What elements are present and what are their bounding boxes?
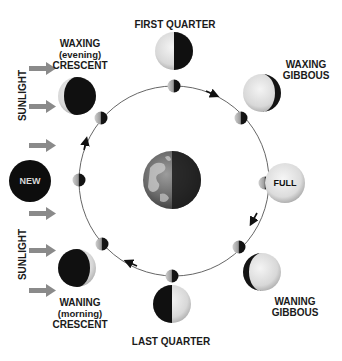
label-line: WAXING: [50, 38, 110, 49]
orbit-moon-left: [73, 174, 86, 187]
orbit-arrow-icon: [252, 213, 257, 222]
label-line: GIBBOUS: [270, 307, 320, 318]
label-line: (morning): [50, 308, 110, 319]
earth: [143, 151, 201, 209]
orbit-moon-bottom: [166, 270, 179, 283]
waxing-crescent-label: WAXING (evening) CRESCENT: [50, 38, 110, 71]
orbit-arrow-icon: [128, 262, 137, 266]
waning-gibbous-label: WANING GIBBOUS: [270, 296, 320, 318]
orbit-moon-bottom-right: [233, 241, 246, 254]
sunlight-arrow-icon: [29, 244, 56, 257]
label-line: WANING: [270, 296, 320, 307]
label-line: LAST QUARTER: [126, 336, 216, 347]
full-label: FULL: [265, 178, 305, 188]
sunlight-label-bottom: SUNLIGHT: [17, 225, 28, 285]
first-quarter-label: FIRST QUARTER: [130, 19, 220, 30]
label-line: CRESCENT: [50, 319, 110, 330]
orbit-moon-top-right: [235, 112, 248, 125]
waxing-gibbous-label: WAXING GIBBOUS: [281, 59, 331, 81]
label-line: CRESCENT: [50, 60, 110, 71]
sunlight-label-top: SUNLIGHT: [17, 66, 28, 126]
label-line: WANING: [50, 297, 110, 308]
orbit-moon-top-left: [95, 112, 108, 125]
waning-crescent-label: WANING (morning) CRESCENT: [50, 297, 110, 330]
moon-phase-waxing-gibbous: [243, 74, 281, 112]
moon-phase-first-quarter: [155, 32, 193, 70]
label-line: (evening): [50, 49, 110, 60]
new-label: NEW: [9, 176, 51, 186]
label-line: WAXING: [281, 59, 331, 70]
label-line: GIBBOUS: [281, 70, 331, 81]
moon-phase-waning-gibbous: [243, 253, 281, 291]
moon-phase-waxing-crescent: [58, 77, 96, 115]
orbit-moon-top: [168, 80, 181, 93]
last-quarter-label: LAST QUARTER: [126, 336, 216, 347]
sunlight-arrow-icon: [29, 100, 56, 113]
moon-phase-waning-crescent: [58, 249, 96, 287]
orbit-arrow-icon: [84, 141, 86, 150]
label-line: FIRST QUARTER: [130, 19, 220, 30]
orbit-moon-bottom-left: [96, 238, 109, 251]
sunlight-arrow-icon: [29, 207, 56, 220]
orbit-arrow-icon: [206, 91, 215, 95]
moon-phase-last-quarter: [153, 285, 191, 323]
sunlight-arrow-icon: [29, 139, 56, 152]
sunlight-arrow-icon: [29, 284, 56, 297]
